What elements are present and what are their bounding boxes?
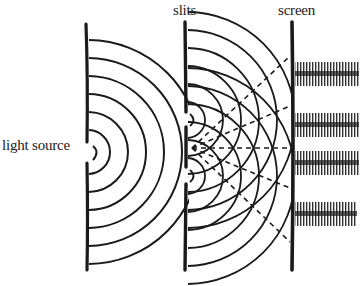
slit-barrier: [185, 22, 194, 270]
fringe-3: [295, 151, 359, 175]
source-barrier: [86, 24, 97, 270]
slits-label: slits: [173, 2, 196, 19]
screen: [292, 22, 293, 270]
fringe-2: [295, 113, 359, 137]
fringe-4: [295, 202, 357, 226]
fringe-1: [295, 62, 359, 86]
double-slit-diagram: light source slits screen: [0, 0, 360, 286]
screen-label: screen: [278, 2, 315, 19]
light-source-label: light source: [2, 137, 70, 154]
interference-fringes: [295, 62, 359, 226]
figure-caption-clipped: [150, 276, 210, 286]
